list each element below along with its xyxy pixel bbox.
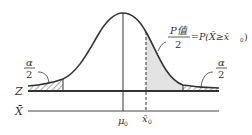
xbar0-subscript: 0 xyxy=(148,118,152,125)
z-axis-label: Z xyxy=(14,85,23,98)
mu0-subscript: 0 xyxy=(124,120,128,127)
p-value-expression-close: ) xyxy=(244,31,248,42)
p-value-denominator: 2 xyxy=(175,39,181,50)
xbar-axis-label: X̄ xyxy=(14,105,24,118)
left-alpha-leader xyxy=(38,72,49,83)
right-alpha-numerator: α xyxy=(218,57,225,68)
p-value-expression: =P(X̄≥x̄ xyxy=(191,31,230,42)
p-value-leader xyxy=(158,42,166,51)
left-alpha-numerator: α xyxy=(26,57,33,68)
right-alpha-leader xyxy=(201,72,213,87)
right-alpha-denominator: 2 xyxy=(218,69,224,80)
normal-curve-diagram: Z X̄ μ 0 x̄ 0 α 2 α 2 P值 2 =P(X̄≥x̄ 0 ) xyxy=(0,0,252,135)
p-value-numerator: P值 xyxy=(169,25,189,36)
left-alpha-denominator: 2 xyxy=(26,69,32,80)
